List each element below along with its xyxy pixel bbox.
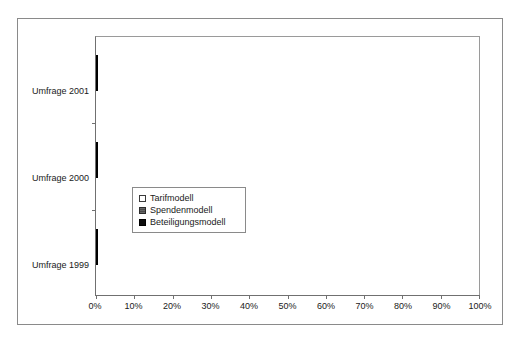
value-axis-label-100: 100% bbox=[460, 301, 500, 311]
category-tick bbox=[92, 210, 96, 211]
chart-frame: Umfrage 2001 Umfrage 2000 Umfrage 1999 bbox=[17, 18, 503, 325]
category-label-1999: Umfrage 1999 bbox=[17, 260, 89, 270]
value-axis-label-50: 50% bbox=[268, 301, 308, 311]
value-axis-label-70: 70% bbox=[345, 301, 385, 311]
value-tick bbox=[402, 295, 403, 299]
value-tick bbox=[134, 295, 135, 299]
value-tick bbox=[441, 295, 442, 299]
value-axis-label-10: 10% bbox=[114, 301, 154, 311]
legend-item-tarifmodell: Tarifmodell bbox=[139, 192, 239, 204]
value-tick bbox=[211, 295, 212, 299]
chart-legend: Tarifmodell Spendenmodell Beteiligungsmo… bbox=[132, 187, 246, 233]
legend-label: Tarifmodell bbox=[150, 192, 194, 204]
value-axis-label-90: 90% bbox=[422, 301, 462, 311]
category-label-2000: Umfrage 2000 bbox=[17, 173, 89, 183]
value-tick bbox=[249, 295, 250, 299]
category-label-2001: Umfrage 2001 bbox=[17, 86, 89, 96]
legend-label: Beteiligungsmodell bbox=[150, 216, 226, 228]
value-axis-label-80: 80% bbox=[383, 301, 423, 311]
value-axis-label-20: 20% bbox=[152, 301, 192, 311]
legend-item-beteiligungsmodell: Beteiligungsmodell bbox=[139, 216, 239, 228]
bar-segment-beteiligungsmodell bbox=[96, 229, 98, 265]
value-axis-label-0: 0% bbox=[75, 301, 115, 311]
value-axis-label-60: 60% bbox=[306, 301, 346, 311]
bar-segment-beteiligungsmodell bbox=[96, 142, 98, 178]
white-square-icon bbox=[139, 195, 146, 202]
value-tick bbox=[326, 295, 327, 299]
gray-square-icon bbox=[139, 207, 146, 214]
bar-segment-beteiligungsmodell bbox=[96, 55, 98, 91]
black-square-icon bbox=[139, 219, 146, 226]
value-tick bbox=[364, 295, 365, 299]
value-axis-label-30: 30% bbox=[191, 301, 231, 311]
value-tick bbox=[96, 295, 97, 299]
value-axis-label-40: 40% bbox=[229, 301, 269, 311]
value-tick bbox=[288, 295, 289, 299]
plot-area bbox=[95, 36, 480, 296]
legend-item-spendenmodell: Spendenmodell bbox=[139, 204, 239, 216]
value-tick bbox=[479, 295, 480, 299]
category-axis: Umfrage 2001 Umfrage 2000 Umfrage 1999 bbox=[18, 36, 95, 296]
value-tick bbox=[173, 295, 174, 299]
legend-label: Spendenmodell bbox=[150, 204, 213, 216]
category-tick bbox=[92, 123, 96, 124]
